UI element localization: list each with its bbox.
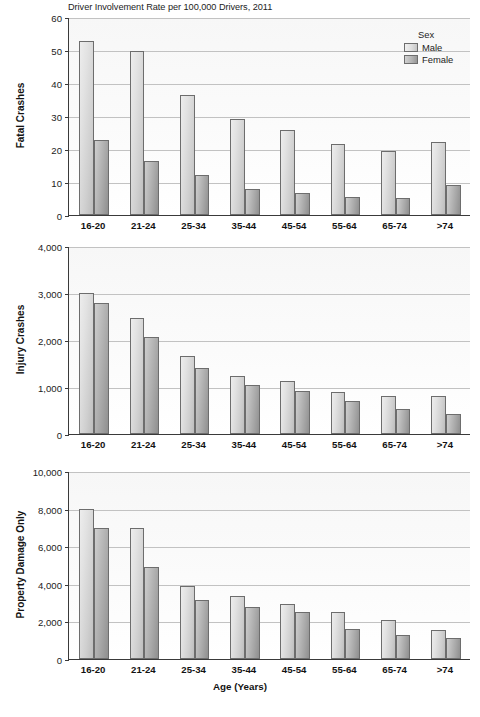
- y-axis-tick-label: 2,000: [38, 336, 62, 347]
- y-axis-tick-label: 6,000: [38, 542, 62, 553]
- y-axis-tick-mark: [65, 622, 69, 623]
- y-axis-tick-mark: [65, 84, 69, 85]
- panel-fatal-crashes: Driver Involvement Rate per 100,000 Driv…: [0, 0, 480, 240]
- x-axis-tick-label: 16-20: [81, 220, 106, 231]
- bar-female-21-24: [144, 161, 159, 215]
- y-axis-tick-mark: [65, 216, 69, 217]
- legend-label-male: Male: [422, 42, 442, 53]
- x-axis-tick-label: 55-64: [332, 664, 357, 675]
- y-axis-tick-mark: [65, 435, 69, 436]
- bar-male-25-34: [180, 356, 195, 434]
- bar-female-65-74: [396, 409, 411, 434]
- gridline: [69, 247, 470, 248]
- y-axis-tick-label: 8,000: [38, 504, 62, 515]
- y-axis-tick-mark: [65, 585, 69, 586]
- y-axis-tick-label: 2,000: [38, 617, 62, 628]
- driver-involvement-figure: Driver Involvement Rate per 100,000 Driv…: [0, 0, 480, 717]
- y-axis-tick-label: 10,000: [33, 467, 62, 478]
- bar-female-16-20: [94, 528, 109, 659]
- bar-female-35-44: [245, 189, 260, 215]
- y-axis-label-fatal: Fatal Crashes: [15, 36, 26, 196]
- bar-male-45-54: [280, 130, 295, 215]
- x-axis-tick-label: 35-44: [232, 664, 257, 675]
- bar-male-65-74: [381, 620, 396, 659]
- y-axis-tick-label: 0: [57, 655, 62, 666]
- bar-female-over74: [446, 185, 461, 215]
- y-axis-tick-label: 0: [57, 430, 62, 441]
- bar-female-55-64: [345, 401, 360, 434]
- y-axis-tick-mark: [65, 547, 69, 548]
- y-axis-tick-label: 50: [51, 46, 62, 57]
- x-axis-tick-label: 25-34: [181, 220, 206, 231]
- legend-swatch-female-icon: [404, 55, 418, 64]
- bar-male-65-74: [381, 396, 396, 434]
- bar-female-45-54: [295, 612, 310, 659]
- x-axis-tick-label: 65-74: [382, 439, 407, 450]
- bar-male-16-20: [79, 41, 94, 215]
- y-axis-label-pdo: Property Damage Only: [15, 485, 26, 645]
- bar-male-16-20: [79, 293, 94, 434]
- bar-male-16-20: [79, 509, 94, 659]
- bar-female-35-44: [245, 385, 260, 434]
- bar-male-55-64: [331, 392, 346, 434]
- y-axis-tick-mark: [65, 510, 69, 511]
- legend-title: Sex: [418, 29, 480, 40]
- bar-male-21-24: [130, 318, 145, 434]
- bar-female-25-34: [195, 175, 210, 215]
- bar-female-21-24: [144, 567, 159, 659]
- panel-injury-crashes: Injury Crashes 01,0002,0003,0004,00016-2…: [0, 240, 480, 462]
- legend-label-female: Female: [422, 54, 453, 65]
- y-axis-tick-label: 30: [51, 112, 62, 123]
- y-axis-tick-label: 10: [51, 178, 62, 189]
- x-axis-tick-label: >74: [437, 664, 453, 675]
- x-axis-tick-label: 45-54: [282, 664, 307, 675]
- x-axis-title: Age (Years): [0, 681, 480, 692]
- gridline: [69, 472, 470, 473]
- plot-area-injury: [68, 247, 470, 435]
- y-axis-tick-label: 4,000: [38, 242, 62, 253]
- x-axis-tick-label: >74: [437, 220, 453, 231]
- bar-male-over74: [431, 396, 446, 434]
- legend: Sex Male Female: [404, 29, 480, 66]
- y-axis-tick-label: 40: [51, 79, 62, 90]
- bar-female-65-74: [396, 635, 411, 659]
- bar-female-55-64: [345, 629, 360, 659]
- bar-female-35-44: [245, 607, 260, 659]
- bar-female-16-20: [94, 303, 109, 434]
- bar-female-over74: [446, 638, 461, 659]
- bar-male-45-54: [280, 604, 295, 659]
- bar-male-21-24: [130, 51, 145, 215]
- y-axis-tick-mark: [65, 341, 69, 342]
- y-axis-tick-mark: [65, 660, 69, 661]
- bar-male-25-34: [180, 95, 195, 215]
- y-axis-tick-mark: [65, 472, 69, 473]
- x-axis-tick-label: 21-24: [131, 664, 156, 675]
- y-axis-tick-label: 1,000: [38, 383, 62, 394]
- bar-male-35-44: [230, 119, 245, 215]
- x-axis-tick-label: 21-24: [131, 439, 156, 450]
- y-axis-label-injury: Injury Crashes: [15, 260, 26, 420]
- bar-female-45-54: [295, 391, 310, 434]
- chart-title: Driver Involvement Rate per 100,000 Driv…: [68, 2, 272, 12]
- bar-female-25-34: [195, 600, 210, 659]
- x-axis-tick-label: 21-24: [131, 220, 156, 231]
- y-axis-tick-label: 3,000: [38, 289, 62, 300]
- y-axis-tick-mark: [65, 51, 69, 52]
- x-axis-tick-label: 45-54: [282, 439, 307, 450]
- legend-item-male: Male: [404, 42, 480, 53]
- x-axis-tick-label: 16-20: [81, 664, 106, 675]
- x-axis-tick-label: 35-44: [232, 439, 257, 450]
- y-axis-tick-label: 0: [57, 211, 62, 222]
- legend-swatch-male-icon: [404, 43, 418, 52]
- gridline: [69, 294, 470, 295]
- bar-female-65-74: [396, 198, 411, 215]
- bar-male-55-64: [331, 144, 346, 215]
- y-axis-tick-mark: [65, 247, 69, 248]
- y-axis-tick-mark: [65, 294, 69, 295]
- panel-property-damage-only: Property Damage Only Age (Years) 02,0004…: [0, 462, 480, 717]
- y-axis-tick-label: 20: [51, 145, 62, 156]
- gridline: [69, 510, 470, 511]
- x-axis-tick-label: 25-34: [181, 664, 206, 675]
- bar-male-over74: [431, 630, 446, 659]
- plot-area-pdo: [68, 472, 470, 660]
